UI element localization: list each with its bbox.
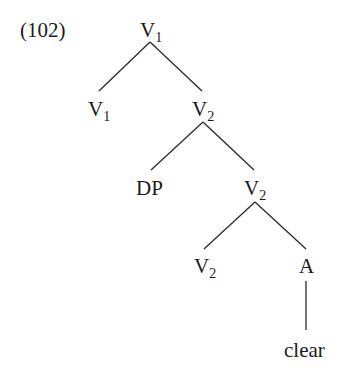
syntax-tree: (102) V1 V1 V2 DP V2 V2 A clear xyxy=(0,0,351,378)
node-clear: clear xyxy=(284,338,325,362)
svg-text:V2: V2 xyxy=(192,97,214,124)
edge-v2-v2-lower xyxy=(204,202,255,249)
edge-root-v2 xyxy=(150,42,202,91)
svg-text:V1: V1 xyxy=(140,18,162,45)
node-dp: DP xyxy=(136,176,163,200)
svg-text:V2: V2 xyxy=(244,176,266,203)
node-v2-lower: V2 xyxy=(194,254,216,281)
node-v2-upper: V2 xyxy=(192,97,214,124)
node-a: A xyxy=(299,254,315,278)
node-v1: V1 xyxy=(88,97,110,124)
edge-root-v1 xyxy=(99,42,150,91)
svg-text:V1: V1 xyxy=(88,97,110,124)
edge-v2-v2 xyxy=(203,122,254,170)
edge-v2-a xyxy=(255,202,306,249)
node-root-v1: V1 xyxy=(140,18,162,45)
example-number: (102) xyxy=(20,18,66,42)
svg-text:DP: DP xyxy=(136,176,163,200)
svg-text:V2: V2 xyxy=(194,254,216,281)
node-v2-middle: V2 xyxy=(244,176,266,203)
svg-text:clear: clear xyxy=(284,338,325,362)
edge-v2-dp xyxy=(151,122,203,170)
svg-text:A: A xyxy=(299,254,315,278)
